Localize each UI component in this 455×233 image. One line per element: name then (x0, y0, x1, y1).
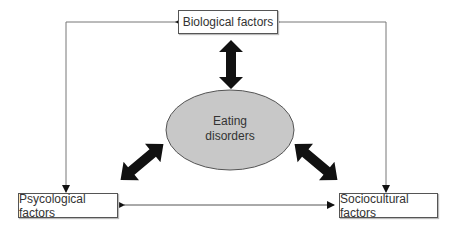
eating-disorders-line2: disorders (190, 129, 270, 144)
biological-factors-label: Biological factors (183, 15, 274, 29)
eating-disorders-line1: Eating (190, 114, 270, 129)
bold-double-arrow-socio (287, 135, 345, 189)
bold-double-arrow-bio (219, 40, 243, 89)
bold-double-arrow-psych (113, 135, 171, 189)
thin-connector-bio-psych (66, 22, 176, 192)
sociocultural-factors-label: Sociocultural factors (340, 192, 437, 220)
eating-disorders-label: Eating disorders (190, 114, 270, 144)
psychological-factors-label: Psycological factors (19, 192, 117, 220)
psychological-factors-box: Psycological factors (18, 193, 118, 218)
biological-factors-box: Biological factors (178, 10, 278, 34)
sociocultural-factors-box: Sociocultural factors (339, 193, 438, 218)
